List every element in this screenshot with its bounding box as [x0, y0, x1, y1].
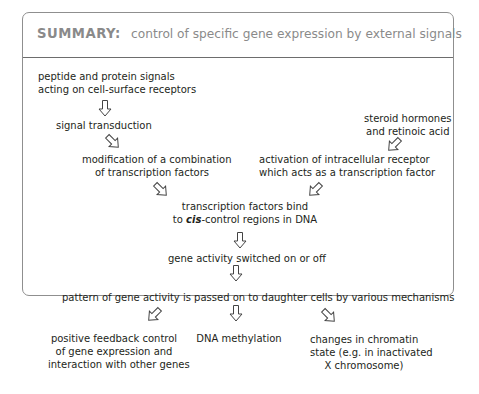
node-dna-methylation: DNA methylation: [196, 332, 282, 345]
node-tf-bind: transcription factors bind to cis-contro…: [160, 200, 330, 226]
node-peptide-signals: peptide and protein signals acting on ce…: [38, 70, 170, 96]
arrow-down-right-icon: [320, 307, 334, 323]
node-line: DNA methylation: [196, 332, 282, 345]
node-line: X chromosome): [310, 359, 418, 372]
node-positive-feedback: positive feedback control of gene expres…: [48, 332, 180, 371]
arrow-down-icon: [233, 232, 247, 248]
node-activation: activation of intracellular receptor whi…: [259, 153, 427, 179]
node-line: state (e.g. in inactivated: [310, 346, 418, 359]
node-line: positive feedback control: [48, 332, 180, 345]
node-line: acting on cell-surface receptors: [38, 83, 170, 96]
node-line: which acts as a transcription factor: [259, 166, 427, 179]
node-line: pattern of gene activity is passed on to…: [62, 291, 418, 304]
node-line: gene activity switched on or off: [168, 252, 324, 265]
arrow-down-left-icon: [385, 136, 399, 152]
node-chromatin: changes in chromatin state (e.g. in inac…: [310, 333, 418, 372]
arrow-down-icon: [98, 100, 112, 116]
node-line: to cis-control regions in DNA: [160, 213, 330, 226]
node-line: changes in chromatin: [310, 333, 418, 346]
node-steroid: steroid hormones and retinoic acid: [364, 112, 452, 138]
node-line: of gene expression and: [48, 345, 180, 358]
arrow-down-left-icon: [145, 306, 159, 322]
node-line: steroid hormones: [364, 112, 452, 125]
node-line: interaction with other genes: [48, 358, 180, 371]
node-line: and retinoic acid: [364, 125, 452, 138]
arrow-down-right-icon: [104, 133, 118, 149]
arrow-down-left-icon: [306, 181, 320, 197]
summary-title: control of specific gene expression by e…: [131, 27, 462, 41]
node-line: modification of a combination: [82, 153, 222, 166]
panel-header: SUMMARY: control of specific gene expres…: [23, 13, 453, 58]
arrow-down-right-icon: [152, 181, 166, 197]
node-line: signal transduction: [56, 119, 152, 132]
node-pattern: pattern of gene activity is passed on to…: [62, 291, 418, 304]
node-line: transcription factors bind: [160, 200, 330, 213]
summary-label: SUMMARY:: [37, 26, 121, 41]
text-fragment: -control regions in DNA: [201, 214, 317, 225]
node-line: peptide and protein signals: [38, 70, 170, 83]
arrow-down-icon: [229, 305, 243, 321]
node-signal-transduction: signal transduction: [56, 119, 152, 132]
node-modification: modification of a combination of transcr…: [82, 153, 222, 179]
node-line: activation of intracellular receptor: [259, 153, 427, 166]
arrow-down-icon: [229, 265, 243, 281]
node-gene-switched: gene activity switched on or off: [168, 252, 324, 265]
node-line: of transcription factors: [82, 166, 222, 179]
text-fragment: to: [173, 214, 186, 225]
cis-italic: cis: [186, 214, 201, 225]
